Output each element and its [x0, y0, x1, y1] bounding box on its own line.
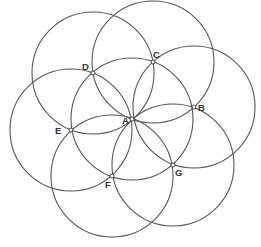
point-b — [192, 105, 196, 109]
circle-diagram: ABCDEFG — [0, 0, 261, 247]
label-c: C — [153, 49, 160, 60]
point-f — [110, 174, 114, 178]
point-a — [130, 117, 134, 121]
label-d: D — [82, 61, 89, 72]
point-c — [151, 60, 155, 64]
label-g: G — [175, 167, 182, 178]
label-e: E — [55, 125, 61, 136]
point-d — [91, 71, 95, 75]
point-e — [69, 128, 73, 132]
label-f: F — [105, 179, 111, 190]
label-b: B — [198, 102, 205, 113]
label-a: A — [122, 115, 129, 126]
